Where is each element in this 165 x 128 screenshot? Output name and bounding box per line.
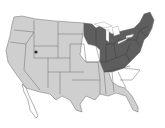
us-map — [0, 0, 165, 128]
us-map-svg — [0, 0, 165, 128]
great-salt-lake-marker — [34, 50, 37, 53]
